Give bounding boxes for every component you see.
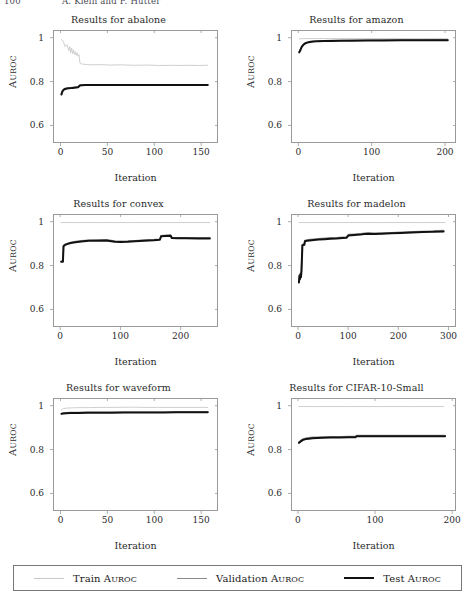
y-tick-label: 1 (38, 401, 44, 411)
series-line (299, 231, 444, 282)
x-tick-label: 0 (58, 147, 64, 157)
x-tick-label: 0 (295, 331, 301, 341)
y-tick-label: 0.6 (30, 120, 44, 130)
legend-entries: Train AUROCValidation AUROCTest AUROC (14, 566, 461, 590)
y-tick-label: 0.6 (268, 488, 282, 498)
series-line (299, 436, 445, 443)
x-tick-label: 200 (390, 331, 407, 341)
chart-legend: Train AUROCValidation AUROCTest AUROC (13, 565, 462, 591)
plot-area (291, 398, 456, 511)
legend-line-swatch (34, 578, 64, 579)
figure-panel-grid: Results for abaloneAUROCIteration0.60.81… (0, 14, 475, 559)
legend-entry: Test AUROC (344, 573, 441, 584)
x-axis-label: Iteration (53, 172, 218, 183)
x-axis-label: Iteration (291, 540, 456, 551)
series-line (299, 231, 444, 282)
series-line (299, 40, 448, 52)
y-tick-label: 0.8 (268, 445, 282, 455)
x-tick-label: 200 (444, 515, 461, 525)
x-axis-label: Iteration (291, 356, 456, 367)
x-tick-label: 0 (295, 515, 301, 525)
x-axis-label: Iteration (53, 540, 218, 551)
running-head-authors: A. Klein and F. Hutter (62, 0, 160, 6)
y-tick-labels: 0.60.81 (238, 214, 287, 327)
y-tick-labels: 0.60.81 (0, 214, 49, 327)
y-tick-label: 0.8 (268, 77, 282, 87)
legend-label: Train AUROC (73, 573, 137, 584)
x-tick-label: 150 (193, 515, 210, 525)
x-tick-label: 100 (146, 147, 163, 157)
x-tick-label: 200 (172, 331, 189, 341)
chart-title: Results for waveform (0, 382, 237, 393)
x-tick-label: 0 (295, 147, 301, 157)
y-tick-label: 0.6 (268, 304, 282, 314)
legend-entry: Train AUROC (34, 573, 137, 584)
page-folio: 100 (4, 0, 21, 6)
x-tick-label: 150 (193, 147, 210, 157)
chart-panel: Results for convexAUROCIteration0.60.810… (0, 198, 237, 380)
x-tick-labels: 050100150 (53, 515, 218, 529)
y-tick-label: 0.8 (30, 77, 44, 87)
y-tick-labels: 0.60.81 (238, 30, 287, 143)
x-axis-label: Iteration (53, 356, 218, 367)
x-tick-label: 200 (436, 147, 453, 157)
series-line (61, 85, 207, 94)
chart-panel: Results for waveformAUROCIteration0.60.8… (0, 382, 237, 564)
x-tick-label: 100 (112, 331, 129, 341)
chart-title: Results for convex (0, 198, 237, 209)
plot-area (53, 30, 218, 143)
plot-area (291, 30, 456, 143)
series-line (61, 412, 207, 414)
legend-line-swatch (177, 578, 207, 579)
chart-title: Results for CIFAR-10-Small (238, 382, 475, 393)
x-tick-label: 100 (363, 147, 380, 157)
x-tick-label: 50 (102, 147, 113, 157)
chart-panel: Results for abaloneAUROCIteration0.60.81… (0, 14, 237, 196)
legend-entry: Validation AUROC (177, 573, 304, 584)
plot-area (53, 214, 218, 327)
y-tick-label: 1 (38, 217, 44, 227)
series-line (61, 236, 210, 262)
page-running-header: 100 A. Klein and F. Hutter (0, 0, 475, 8)
x-tick-label: 0 (58, 515, 64, 525)
series-line (61, 40, 207, 66)
y-tick-label: 0.6 (30, 304, 44, 314)
chart-panel: Results for amazonAUROCIteration0.60.810… (238, 14, 475, 196)
y-tick-label: 1 (38, 33, 44, 43)
y-tick-label: 0.6 (268, 120, 282, 130)
x-tick-label: 50 (102, 515, 113, 525)
legend-line-swatch (344, 577, 374, 579)
y-tick-label: 1 (276, 33, 282, 43)
x-tick-label: 100 (146, 515, 163, 525)
x-tick-labels: 0100200 (291, 147, 456, 161)
y-tick-label: 1 (276, 401, 282, 411)
y-tick-label: 0.8 (30, 445, 44, 455)
chart-panel: Results for madelonAUROCIteration0.60.81… (238, 198, 475, 380)
x-tick-labels: 050100150 (53, 147, 218, 161)
chart-title: Results for amazon (238, 14, 475, 25)
x-tick-labels: 0100200 (291, 515, 456, 529)
legend-label: Test AUROC (383, 573, 441, 584)
x-tick-labels: 0100200 (53, 331, 218, 345)
x-axis-label: Iteration (291, 172, 456, 183)
y-tick-labels: 0.60.81 (0, 30, 49, 143)
y-tick-label: 1 (276, 217, 282, 227)
y-tick-labels: 0.60.81 (0, 398, 49, 511)
x-tick-label: 100 (366, 515, 383, 525)
series-line (61, 407, 207, 410)
x-tick-labels: 0100200300 (291, 331, 456, 345)
y-tick-label: 0.8 (30, 261, 44, 271)
x-tick-label: 100 (340, 331, 357, 341)
chart-title: Results for madelon (238, 198, 475, 209)
y-tick-label: 0.6 (30, 488, 44, 498)
plot-area (53, 398, 218, 511)
chart-panel: Results for CIFAR-10-SmallAUROCIteration… (238, 382, 475, 564)
x-tick-label: 0 (57, 331, 63, 341)
plot-area (291, 214, 456, 327)
chart-title: Results for abalone (0, 14, 237, 25)
y-tick-label: 0.8 (268, 261, 282, 271)
y-tick-labels: 0.60.81 (238, 398, 287, 511)
legend-label: Validation AUROC (216, 573, 304, 584)
x-tick-label: 300 (440, 331, 457, 341)
